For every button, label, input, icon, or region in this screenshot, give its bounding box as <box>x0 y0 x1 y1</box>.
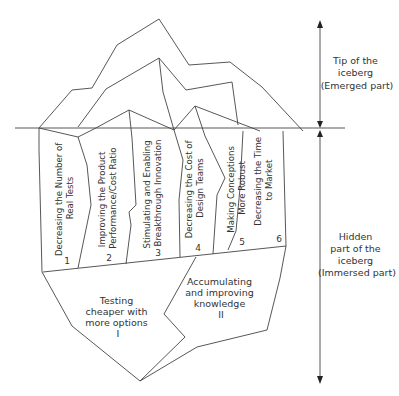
svg-text:2: 2 <box>106 253 112 263</box>
svg-text:6: 6 <box>276 234 282 244</box>
panel-4: Decreasing the Cost of Design Teams 4 <box>184 138 205 253</box>
svg-text:3: 3 <box>155 248 161 258</box>
arrow-up-icon <box>317 20 323 28</box>
iceberg-diagram: Tip of the iceberg (Emerged part) Hidden… <box>0 0 399 396</box>
base-section-II: Accumulating and improving knowledge II <box>185 276 257 320</box>
panel-1: Decreasing the Number of Real Tests 1 <box>54 140 75 266</box>
panel-2: Improving the Product Performance/Cost R… <box>97 147 118 263</box>
svg-text:Decreasing the Cost of D: Decreasing the Cost of Design Teams <box>184 138 205 239</box>
hidden-label: Hidden part of the iceberg (Immersed par… <box>318 231 396 278</box>
panel-3: Stimulating and Enabling Breakthrough In… <box>142 138 163 258</box>
svg-text:1: 1 <box>64 256 70 266</box>
arrow-down-icon <box>317 121 323 128</box>
svg-text:Decreasing the Time to M: Decreasing the Time to Market <box>253 134 274 226</box>
height-arrows <box>317 20 323 384</box>
base-section-I: Testing cheaper with more options I <box>85 295 151 339</box>
svg-text:Improving the Product Pe: Improving the Product Performance/Cost R… <box>97 147 118 248</box>
arrow-up-icon <box>317 130 323 137</box>
panel-5: Making Conceptions More Robust 5 <box>226 143 247 247</box>
svg-text:Stimulating and Enabling: Stimulating and Enabling Breakthrough In… <box>142 138 163 249</box>
arrow-down-icon <box>317 376 323 384</box>
svg-text:4: 4 <box>195 243 201 253</box>
tip-label: Tip of the iceberg (Emerged part) <box>321 55 394 91</box>
svg-text:Making Conceptions More: Making Conceptions More Robust <box>226 143 247 233</box>
panel-6: Decreasing the Time to Market 6 <box>253 134 282 244</box>
svg-text:Decreasing the Number of: Decreasing the Number of Real Tests <box>54 140 75 256</box>
svg-text:5: 5 <box>239 237 245 247</box>
iceberg-tip <box>39 19 303 138</box>
